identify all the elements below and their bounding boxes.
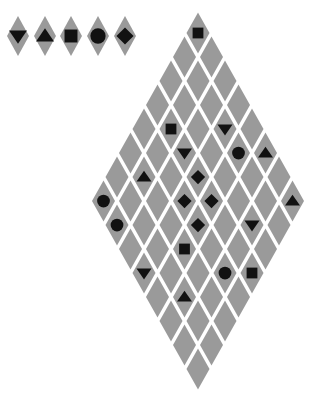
palette-item-diamond[interactable]: [114, 16, 136, 56]
palette-item-circle[interactable]: [87, 16, 109, 56]
square-icon: [193, 28, 204, 39]
circle-icon: [97, 195, 110, 208]
palette-item-triangle-down[interactable]: [7, 16, 29, 56]
square-icon: [247, 268, 258, 279]
palette-item-square[interactable]: [60, 16, 82, 56]
game-board: [92, 13, 304, 390]
square-icon: [65, 30, 78, 43]
square-icon: [166, 124, 177, 135]
game-canvas: [0, 0, 315, 398]
shape-palette: [7, 16, 136, 56]
palette-item-triangle-up[interactable]: [34, 16, 56, 56]
circle-icon: [232, 147, 245, 160]
circle-icon: [90, 28, 105, 43]
circle-icon: [111, 219, 124, 232]
square-icon: [179, 244, 190, 255]
circle-icon: [219, 267, 232, 280]
